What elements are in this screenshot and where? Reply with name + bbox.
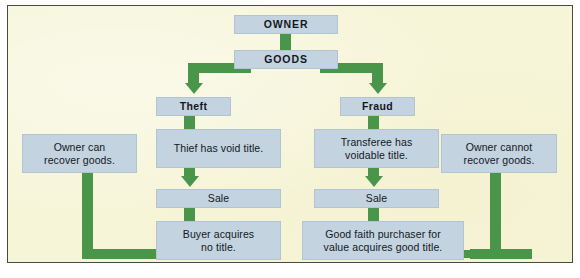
connector-buyer-to-owner-vertical [82,169,93,259]
node-sale-right[interactable]: Sale [314,189,439,208]
node-buyer-line2: no title. [183,241,254,254]
node-buyer-acquires-no-title[interactable]: Buyer acquires no title. [156,221,281,260]
arrowhead-transferee-to-sale [365,176,383,187]
node-owner-cannot-line1: Owner cannot [464,141,535,154]
arrowhead-thief-to-sale [181,176,199,187]
node-owner[interactable]: OWNER [234,15,338,34]
node-owner-cannot-recover[interactable]: Owner cannot recover goods. [441,134,557,173]
connector-goods-to-fraud-vertical [372,63,383,84]
node-sale-left[interactable]: Sale [156,189,281,208]
connector-gfp-right-stub [463,250,475,258]
node-thief-void-title[interactable]: Thief has void title. [156,129,281,168]
connector-sale-to-gfp [368,208,379,221]
diagram-figure: OWNER GOODS Theft Fraud Thief has void t… [0,0,580,278]
node-buyer-line1: Buyer acquires [183,228,254,241]
connector-gfp-to-owner-vertical [490,169,501,259]
diagram-canvas: OWNER GOODS Theft Fraud Thief has void t… [7,5,573,263]
node-transferee-line1: Transferee has [341,136,413,149]
node-owner-can-line2: recover goods. [44,154,115,167]
connector-sale-to-buyer [184,208,195,221]
node-good-faith-purchaser[interactable]: Good faith purchaser for value acquires … [302,221,464,260]
node-owner-can-line1: Owner can [44,141,115,154]
node-owner-can-recover[interactable]: Owner can recover goods. [22,134,137,173]
node-fraud[interactable]: Fraud [340,97,415,116]
node-transferee-voidable-title[interactable]: Transferee has voidable title. [314,129,439,168]
node-theft[interactable]: Theft [156,97,231,116]
node-gfp-line1: Good faith purchaser for [324,228,443,241]
connector-gfp-to-owner-horizontal [470,249,532,259]
connector-theft-to-thief [184,116,195,129]
node-goods[interactable]: GOODS [234,50,338,69]
node-transferee-line2: voidable title. [341,149,413,162]
arrowhead-goods-to-fraud [369,83,387,94]
node-owner-cannot-line2: recover goods. [464,154,535,167]
connector-goods-to-theft-vertical [188,63,199,84]
connector-owner-to-goods [280,33,291,51]
connector-fraud-to-transferee [368,116,379,129]
node-gfp-line2: value acquires good title. [324,241,443,254]
arrowhead-goods-to-theft [185,83,203,94]
